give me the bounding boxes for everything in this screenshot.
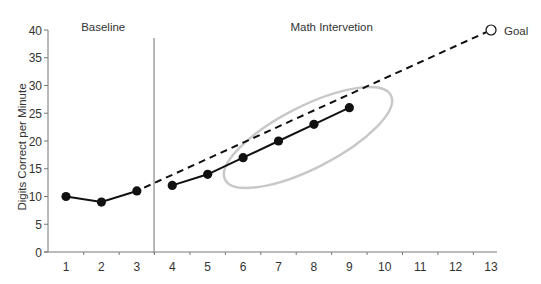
phase-label-intervention: Math Intervetion <box>290 21 372 33</box>
data-point <box>345 103 354 112</box>
aim-line <box>144 32 486 188</box>
y-tick-label: 0 <box>35 246 42 260</box>
axes: 051015202530354012345678910111213Digits … <box>16 24 498 275</box>
y-tick-label: 40 <box>29 24 43 38</box>
x-tick-label: 11 <box>414 260 427 274</box>
data-point <box>168 181 177 190</box>
data-point <box>132 186 141 195</box>
x-tick-label: 5 <box>204 260 211 274</box>
x-tick-label: 1 <box>63 260 70 274</box>
y-tick-label: 5 <box>35 218 42 232</box>
x-tick-label: 13 <box>484 260 498 274</box>
y-axis-title: Digits Correct per Minute <box>16 83 28 210</box>
y-tick-label: 25 <box>29 107 43 121</box>
y-tick-label: 15 <box>29 162 43 176</box>
x-tick-label: 10 <box>378 260 392 274</box>
data-series <box>61 103 354 207</box>
y-tick-label: 10 <box>29 190 43 204</box>
x-tick-label: 3 <box>133 260 140 274</box>
data-point <box>61 192 70 201</box>
data-point <box>97 197 106 206</box>
y-tick-label: 30 <box>29 79 43 93</box>
x-tick-label: 9 <box>346 260 353 274</box>
highlight-ellipse-shape <box>211 68 405 208</box>
data-point <box>203 170 212 179</box>
x-tick-label: 6 <box>240 260 247 274</box>
progress-monitoring-chart: 051015202530354012345678910111213Digits … <box>0 0 541 284</box>
series-line-math-intervetion <box>172 108 349 186</box>
goal-marker: Goal <box>486 25 528 37</box>
x-tick-label: 4 <box>169 260 176 274</box>
data-point <box>274 136 283 145</box>
data-point <box>309 120 318 129</box>
y-tick-label: 35 <box>29 51 43 65</box>
goal-open-circle-icon <box>486 25 496 35</box>
x-tick-label: 8 <box>311 260 318 274</box>
highlight-ellipse <box>211 68 405 208</box>
y-tick-label: 20 <box>29 135 43 149</box>
phase-label-baseline: Baseline <box>81 21 125 33</box>
x-tick-label: 2 <box>98 260 105 274</box>
chart-labels: BaselineMath Intervetion <box>81 21 373 33</box>
x-tick-label: 12 <box>449 260 463 274</box>
goal-label: Goal <box>504 25 528 37</box>
aim-line-dashed <box>144 32 486 188</box>
x-tick-label: 7 <box>275 260 282 274</box>
data-point <box>239 153 248 162</box>
